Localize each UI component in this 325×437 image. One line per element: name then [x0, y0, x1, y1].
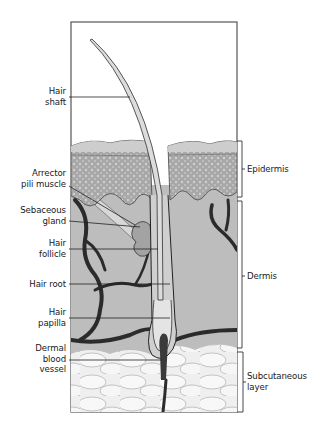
- label-arrector-pili-muscle: Arrector pili muscle: [21, 168, 66, 189]
- label-sebaceous-gland: Sebaceous gland: [20, 205, 66, 226]
- label-dermis: Dermis: [247, 271, 277, 282]
- label-line: Sebaceous: [20, 205, 66, 216]
- label-line: Hair: [45, 86, 66, 97]
- label-line: gland: [20, 216, 66, 227]
- label-hair-papilla: Hair papilla: [38, 307, 66, 328]
- label-line: follicle: [39, 249, 66, 260]
- label-hair-shaft: Hair shaft: [45, 86, 66, 107]
- label-line: Hair root: [29, 279, 66, 290]
- subcutaneous-bracket: [237, 352, 246, 412]
- label-dermal-blood-vessel: Dermal blood vessel: [35, 343, 66, 375]
- label-subcutaneous-layer: Subcutaneous layer: [247, 371, 307, 392]
- label-line: Hair: [38, 307, 66, 318]
- layer-brackets: [237, 141, 246, 412]
- label-line: shaft: [45, 97, 66, 108]
- label-hair-root: Hair root: [29, 279, 66, 290]
- label-line: Subcutaneous: [247, 371, 307, 382]
- label-line: vessel: [35, 364, 66, 375]
- label-hair-follicle: Hair follicle: [39, 238, 66, 259]
- label-line: pili muscle: [21, 179, 66, 190]
- epidermis-bracket: [237, 141, 245, 197]
- label-line: Epidermis: [247, 164, 289, 175]
- label-line: Dermal: [35, 343, 66, 354]
- dermis-bracket: [237, 201, 245, 348]
- label-line: papilla: [38, 318, 66, 329]
- label-epidermis: Epidermis: [247, 164, 289, 175]
- label-line: blood: [35, 354, 66, 365]
- label-line: Arrector: [21, 168, 66, 179]
- label-line: Hair: [39, 238, 66, 249]
- label-line: Dermis: [247, 271, 277, 282]
- label-line: layer: [247, 382, 307, 393]
